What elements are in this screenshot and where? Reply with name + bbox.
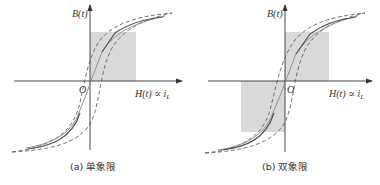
origin-label: O	[79, 84, 86, 95]
caption-a: (a) 单象限	[70, 161, 116, 172]
hysteresis-diagram: B(t) O H(t) ∝ iL (a) 单象限 B(t) O H(t) ∝ i…	[0, 0, 380, 185]
shaded-region-q3	[241, 81, 285, 132]
panel-b: B(t) O H(t) ∝ iL (b) 双象限	[205, 5, 372, 172]
origin-label: O	[287, 84, 294, 95]
y-axis-label: B(t)	[72, 8, 88, 20]
x-axis-label: H(t) ∝ iL	[328, 88, 364, 101]
panel-a: B(t) O H(t) ∝ iL (a) 单象限	[12, 5, 182, 172]
shaded-region-q1	[90, 32, 136, 81]
shaded-region-q1	[285, 32, 329, 81]
y-axis-label: B(t)	[267, 8, 283, 20]
x-axis-label: H(t) ∝ iL	[134, 88, 170, 101]
caption-b: (b) 双象限	[262, 161, 308, 172]
